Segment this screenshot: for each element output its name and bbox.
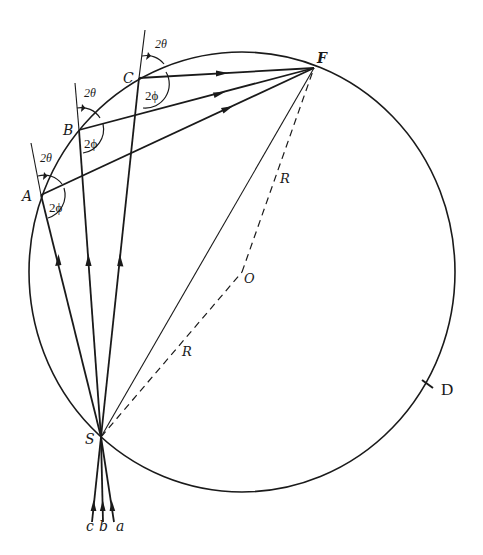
label-2theta-C: 2θ xyxy=(155,37,167,51)
label-ray-b: b xyxy=(99,518,108,534)
label-2phi-A: 2ϕ xyxy=(49,200,63,215)
label-O: O xyxy=(244,271,255,286)
rays-from-S xyxy=(41,78,139,437)
label-ray-a: a xyxy=(116,518,124,534)
label-2phi-C: 2ϕ xyxy=(145,88,159,103)
label-B: B xyxy=(62,122,73,138)
label-2theta-A: 2θ xyxy=(40,151,52,165)
label-R-lower: R xyxy=(181,344,192,359)
label-S: S xyxy=(85,431,95,447)
ray-arrows xyxy=(55,254,123,267)
label-ray-c: c xyxy=(86,518,94,534)
label-2phi-B: 2ϕ xyxy=(84,136,98,151)
label-F: F xyxy=(316,50,328,66)
label-C: C xyxy=(123,70,134,86)
diffracted-rays xyxy=(41,68,314,195)
extension-lines xyxy=(31,30,145,195)
label-R-upper: R xyxy=(279,171,290,186)
chord-SF xyxy=(101,68,314,437)
label-D: D xyxy=(441,380,453,399)
angle-arcs xyxy=(38,56,169,218)
label-A: A xyxy=(20,188,32,204)
focusing-circle-diagram: A B C F S O D R R c b a 2θ 2θ 2θ 2ϕ 2ϕ 2… xyxy=(0,0,483,555)
label-2theta-B: 2θ xyxy=(84,86,96,100)
